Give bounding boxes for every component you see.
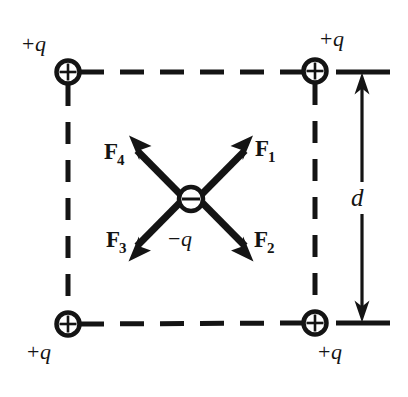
- f4-shaft: [135, 148, 183, 197]
- force-label-f3-main: F: [106, 227, 120, 252]
- force-label-f3-sub: 3: [119, 240, 127, 256]
- charge-top-left: [57, 61, 80, 84]
- force-label-f2: F2: [254, 228, 275, 256]
- force-label-f1-sub: 1: [268, 149, 276, 165]
- charge-label-bottom-right: +q: [318, 341, 342, 363]
- charge-sign-center: −: [168, 226, 181, 251]
- force-label-f4: F4: [104, 140, 125, 168]
- force-label-f1-main: F: [255, 136, 269, 161]
- force-vector-f1: [200, 136, 254, 197]
- charge-label-top-left: +q: [22, 33, 46, 55]
- force-label-f2-sub: 2: [267, 240, 275, 256]
- force-label-f4-main: F: [104, 139, 118, 164]
- f2-shaft: [200, 200, 248, 249]
- dimension-label-d: d: [351, 185, 364, 210]
- figure-canvas: [0, 0, 408, 397]
- charge-symbol-top-left: q: [35, 31, 47, 56]
- charge-sign-top-right: +: [320, 26, 333, 51]
- charge-label-center: −q: [168, 228, 192, 250]
- charge-bottom-left: [57, 313, 80, 336]
- force-label-f1: F1: [255, 137, 276, 165]
- charge-bottom-right: [304, 312, 327, 335]
- charge-symbol-bottom-right: q: [331, 339, 343, 364]
- charge-symbol-center: q: [181, 226, 193, 251]
- force-label-f2-main: F: [254, 227, 268, 252]
- charge-label-top-right: +q: [320, 28, 344, 50]
- charge-label-bottom-left: +q: [27, 341, 51, 363]
- physics-figure: +q +q +q +q −q F1 F2 F3 F4 d: [0, 0, 408, 397]
- force-vector-f4: [129, 136, 183, 197]
- charge-center-negative: [179, 187, 203, 211]
- charge-sign-bottom-right: +: [318, 339, 331, 364]
- charge-symbol-top-right: q: [333, 26, 345, 51]
- force-label-f3: F3: [106, 228, 127, 256]
- force-vector-f2: [200, 200, 254, 262]
- edge-bottom: [80, 323, 303, 324]
- charge-sign-top-left: +: [22, 31, 35, 56]
- charge-symbol-bottom-left: q: [40, 339, 52, 364]
- charge-sign-bottom-left: +: [27, 339, 40, 364]
- charge-top-right: [304, 60, 327, 83]
- f1-shaft: [200, 148, 248, 197]
- force-label-f4-sub: 4: [117, 152, 125, 168]
